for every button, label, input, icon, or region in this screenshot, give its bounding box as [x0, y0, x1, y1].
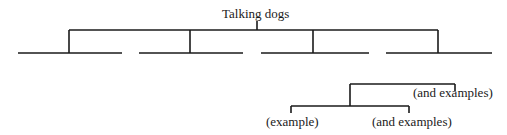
- root-label: Talking dogs: [222, 7, 289, 20]
- subtree-top-right-label: (and examples): [413, 86, 493, 99]
- taxonomy-diagram: Talking dogs (and examples) (example) (a…: [0, 0, 507, 135]
- subtree-bottom-left-label: (example): [266, 115, 319, 128]
- subtree-bottom-right-label: (and examples): [372, 115, 452, 128]
